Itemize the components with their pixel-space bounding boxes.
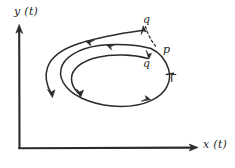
outer-trajectory-arrowhead-down	[48, 89, 55, 97]
limit-cycle-arrowhead-right	[141, 96, 150, 102]
transversal-group	[146, 27, 156, 47]
x-axis-label: x (t)	[203, 139, 227, 150]
limit-cycle-arrowhead-left	[107, 44, 116, 49]
x-axis-line	[19, 148, 192, 149]
outer-trajectory-group	[46, 31, 141, 98]
inner-trajectory-group	[72, 55, 149, 97]
point-label-q-inner: q	[143, 58, 150, 69]
point-markers-group	[141, 26, 151, 59]
point-label-p: p	[163, 44, 170, 55]
limit-cycle-group	[61, 44, 170, 106]
phase-plane-figure: y (t) x (t) q p q Γ	[0, 0, 235, 168]
point-label-q-outer: q	[143, 14, 150, 25]
axes-group	[16, 25, 198, 151]
limit-cycle-label-gamma: Γ	[170, 73, 176, 84]
y-axis-label: y (t)	[14, 6, 38, 17]
sketch-canvas	[0, 0, 235, 168]
transversal-dashed-line	[146, 27, 156, 47]
inner-trajectory-curve	[72, 55, 149, 93]
outer-trajectory-arrowhead-left	[86, 40, 95, 46]
limit-cycle-curve	[61, 44, 170, 106]
